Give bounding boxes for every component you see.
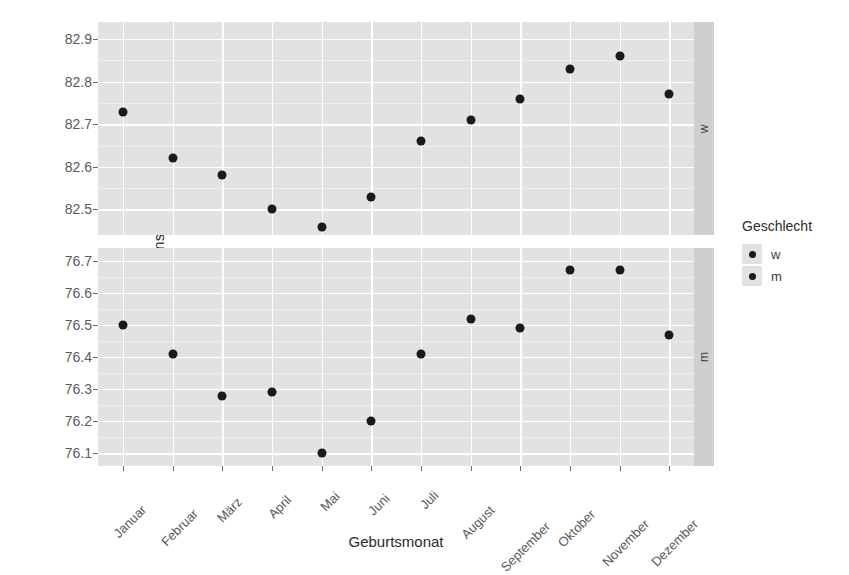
gridline-vertical (520, 22, 521, 235)
gridline-horizontal-minor (98, 103, 694, 104)
y-axis-tick-label: 82.9 (42, 31, 92, 47)
gridline-horizontal (98, 261, 694, 262)
y-axis-tick-label: 82.6 (42, 159, 92, 175)
y-axis-tick-mark (93, 39, 98, 40)
data-point (565, 266, 574, 275)
gridline-vertical (123, 22, 124, 235)
legend-items: wm (742, 243, 847, 287)
facet-panel-w (98, 22, 694, 235)
x-axis-tick-label-wrap: Juli (431, 474, 455, 498)
legend-title: Geschlecht (742, 218, 847, 234)
data-point (168, 349, 177, 358)
gridline-horizontal (98, 82, 694, 83)
legend: Geschlecht wm (742, 218, 847, 287)
data-point (416, 137, 425, 146)
data-point (118, 107, 127, 116)
y-axis-ticks: 82.582.682.782.882.976.176.276.376.476.5… (40, 0, 92, 564)
x-axis-tick-label-wrap: April (283, 474, 312, 503)
gridline-vertical (570, 248, 571, 466)
gridline-horizontal-minor (98, 405, 694, 406)
data-point (267, 388, 276, 397)
data-point (565, 64, 574, 73)
gridline-vertical (322, 248, 323, 466)
gridline-horizontal-minor (98, 437, 694, 438)
legend-item-label: m (771, 269, 782, 284)
y-axis-tick-mark (93, 293, 98, 294)
x-axis-tick-mark (123, 466, 124, 471)
gridline-vertical (272, 248, 273, 466)
gridline-horizontal (98, 421, 694, 422)
gridline-horizontal (98, 167, 694, 168)
gridline-vertical (173, 22, 174, 235)
gridline-vertical (421, 22, 422, 235)
legend-item[interactable]: m (742, 265, 847, 287)
gridline-vertical (520, 248, 521, 466)
y-axis-tick-label: 76.2 (42, 413, 92, 429)
y-axis-tick-label: 82.5 (42, 201, 92, 217)
y-axis-tick-mark (93, 325, 98, 326)
y-axis-tick-mark (93, 124, 98, 125)
x-axis-tick-label-wrap: März (235, 474, 266, 505)
gridline-vertical (272, 22, 273, 235)
data-point (367, 192, 376, 201)
data-point (665, 330, 674, 339)
gridline-horizontal (98, 453, 694, 454)
x-axis-tick-label: Juli (417, 488, 441, 512)
data-point (118, 320, 127, 329)
legend-item[interactable]: w (742, 243, 847, 265)
x-axis-tick-mark (322, 466, 323, 471)
y-axis-tick-label: 76.4 (42, 349, 92, 365)
y-axis-tick-label: 76.5 (42, 317, 92, 333)
data-point (516, 94, 525, 103)
x-axis-tick-mark (222, 466, 223, 471)
gridline-horizontal-minor (98, 341, 694, 342)
legend-key-swatch (742, 266, 762, 286)
gridline-vertical (669, 248, 670, 466)
gridline-horizontal (98, 209, 694, 210)
data-point (218, 391, 227, 400)
x-axis-title: Geburtsmonat (98, 533, 694, 550)
data-point (168, 154, 177, 163)
data-point (615, 52, 624, 61)
data-point (367, 417, 376, 426)
gridline-horizontal (98, 293, 694, 294)
x-axis-tick-mark (620, 466, 621, 471)
data-point (466, 314, 475, 323)
x-axis-tick-label: März (214, 494, 245, 525)
legend-point-icon (749, 273, 756, 280)
x-axis-tick-mark (173, 466, 174, 471)
y-axis-tick-mark (93, 453, 98, 454)
data-point (466, 116, 475, 125)
x-axis-tick-label-wrap: Mai (332, 474, 357, 499)
legend-item-label: w (771, 247, 780, 262)
gridline-horizontal-minor (98, 146, 694, 147)
gridline-vertical (471, 248, 472, 466)
legend-key-swatch (742, 244, 762, 264)
x-axis-tick-label-wrap: August (486, 474, 525, 513)
x-axis-tick-mark (421, 466, 422, 471)
gridline-horizontal (98, 325, 694, 326)
gridline-vertical (570, 22, 571, 235)
gridline-horizontal-minor (98, 373, 694, 374)
x-axis-tick-label-wrap: Juni (382, 474, 409, 501)
x-axis-tick-label: April (265, 492, 294, 521)
data-point (416, 349, 425, 358)
gridline-horizontal-minor (98, 60, 694, 61)
y-axis-tick-mark (93, 167, 98, 168)
gridline-horizontal-minor (98, 309, 694, 310)
x-axis-tick-label-wrap: Dezember (691, 474, 744, 527)
facet-strip-w-label: w (697, 124, 711, 133)
facet-strip-w: w (694, 22, 714, 235)
y-axis-tick-label: 76.3 (42, 381, 92, 397)
x-axis-tick-mark (669, 466, 670, 471)
y-axis-tick-mark (93, 421, 98, 422)
y-axis-tick-label: 82.8 (42, 74, 92, 90)
x-axis-tick-mark (520, 466, 521, 471)
gridline-vertical (123, 248, 124, 466)
gridline-horizontal (98, 389, 694, 390)
gridline-horizontal (98, 39, 694, 40)
x-axis-tick-mark (371, 466, 372, 471)
facet-strip-m-label: m (697, 352, 711, 362)
y-axis-tick-mark (93, 357, 98, 358)
gridline-vertical (371, 248, 372, 466)
